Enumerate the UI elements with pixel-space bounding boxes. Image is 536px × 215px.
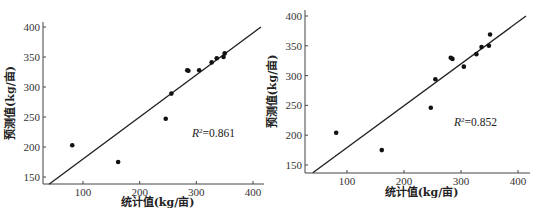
data-point [474,52,479,57]
data-point [163,117,168,122]
x-tick-label: 100 [339,175,356,187]
y-tick-label: 200 [24,141,41,153]
data-point [214,56,219,61]
y-tick-label: 350 [286,40,303,52]
data-point [462,64,467,69]
data-point [209,60,214,65]
data-point [197,68,202,73]
data-point [334,131,339,136]
y-tick-label: 300 [24,81,41,93]
regression-line [313,16,526,173]
data-point [116,160,121,165]
data-point [433,77,438,82]
data-point [169,91,174,96]
data-point [379,148,384,153]
data-point [487,44,492,49]
chart-left: 150200250300350400100200300400统计值(kg/亩)预… [3,21,264,209]
data-point [488,32,493,37]
x-axis-label: 统计值(kg/亩) [385,185,459,199]
y-tick-label: 150 [286,159,303,171]
y-tick-label: 400 [286,10,303,22]
data-point [222,51,227,56]
data-point [186,69,191,74]
y-tick-label: 350 [24,51,41,63]
data-point [450,57,455,62]
data-point [428,105,433,110]
y-tick-label: 400 [24,21,41,33]
scatter-charts: 150200250300350400100200300400统计值(kg/亩)预… [0,0,536,215]
r-squared-annotation: R2=0.861 [191,127,235,139]
chart-right: 150200250300350400100200300400统计值(kg/亩)预… [265,10,530,199]
r-squared-annotation: R2=0.852 [453,116,497,128]
y-axis-label: 预测值(kg/亩) [265,55,279,129]
y-tick-label: 250 [286,99,303,111]
x-axis-label: 统计值(kg/亩) [121,195,195,209]
data-point [479,45,484,50]
data-point [70,143,75,148]
regression-line [49,27,261,184]
y-axis-label: 预测值(kg/亩) [3,66,17,140]
x-tick-label: 400 [510,175,527,187]
x-tick-label: 100 [75,186,92,198]
y-tick-label: 300 [286,70,303,82]
x-tick-label: 400 [245,186,262,198]
y-tick-label: 250 [24,111,41,123]
y-tick-label: 200 [286,129,303,141]
y-tick-label: 150 [24,171,41,183]
